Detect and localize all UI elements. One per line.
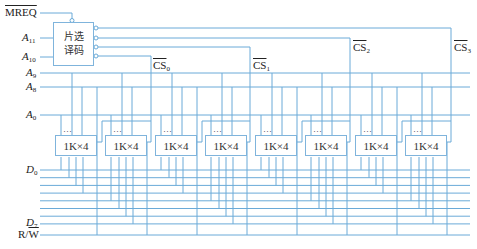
address-ellipsis-8: … xyxy=(413,125,422,134)
address-ellipsis-3: … xyxy=(163,125,172,134)
address-ellipsis-1: … xyxy=(63,125,72,134)
memory-chip-8: 1K×4 xyxy=(405,135,447,156)
label-rw: R/W xyxy=(18,229,39,240)
memory-chip-7: 1K×4 xyxy=(355,135,397,156)
label-mreq: MREQ xyxy=(5,7,37,18)
memory-chip-1: 1K×4 xyxy=(55,135,97,156)
label-a10: A10 xyxy=(22,51,36,64)
label-cs1: CS1 xyxy=(253,60,270,73)
memory-chip-6: 1K×4 xyxy=(305,135,347,156)
address-ellipsis-2: … xyxy=(113,125,122,134)
decoder-label-line1: 片选 xyxy=(64,30,84,44)
address-ellipsis-5: … xyxy=(263,125,272,134)
label-a9: A9 xyxy=(26,67,36,80)
address-ellipsis-6: … xyxy=(313,125,322,134)
address-ellipsis-4: … xyxy=(213,125,222,134)
decoder-label-line2: 译码 xyxy=(64,44,84,58)
memory-chip-3: 1K×4 xyxy=(155,135,197,156)
label-a11: A11 xyxy=(22,32,35,45)
label-a8: A8 xyxy=(26,81,36,94)
memory-expansion-diagram: 片选 译码 MREQ A11 A10 A9 A8 A0 D0 D7 R/W CS… xyxy=(0,0,477,249)
chip-select-decoder: 片选 译码 xyxy=(53,22,94,66)
label-d0: D0 xyxy=(26,164,37,177)
label-cs0: CS0 xyxy=(153,60,170,73)
label-cs3: CS3 xyxy=(454,42,471,55)
memory-chip-5: 1K×4 xyxy=(255,135,297,156)
memory-chip-2: 1K×4 xyxy=(105,135,147,156)
label-cs2: CS2 xyxy=(353,42,370,55)
memory-chip-4: 1K×4 xyxy=(205,135,247,156)
address-ellipsis-7: … xyxy=(363,125,372,134)
label-a0: A0 xyxy=(26,109,36,122)
